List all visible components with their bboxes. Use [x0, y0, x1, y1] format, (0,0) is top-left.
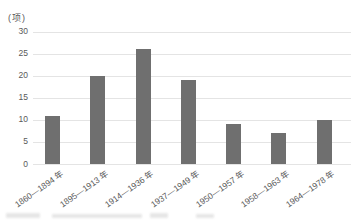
bar-chart: (项) 0510152025301860—1894 年1895—1913 年19… [0, 0, 353, 220]
cropped-text-fragment [6, 213, 40, 218]
bar [136, 49, 151, 164]
x-axis-label: 1937—1949 年 [149, 169, 201, 209]
gridline [33, 32, 351, 33]
y-axis-tick-label: 5 [6, 137, 28, 146]
gridline [33, 164, 351, 165]
x-axis-label: 1860—1894 年 [13, 169, 65, 209]
y-axis-tick-label: 10 [6, 115, 28, 124]
cropped-text-fragment [196, 214, 214, 218]
y-axis-tick-label: 20 [6, 71, 28, 80]
y-axis-tick-label: 25 [6, 49, 28, 58]
x-axis-label: 1914—1936 年 [104, 169, 156, 209]
bar [317, 120, 332, 164]
x-axis-label: 1895—1913 年 [58, 169, 110, 209]
gridline [33, 76, 351, 77]
y-axis-tick-label: 30 [6, 27, 28, 36]
x-axis-label: 1964—1978 年 [285, 169, 337, 209]
bar [226, 124, 241, 164]
y-axis-unit-label: (项) [8, 11, 26, 24]
y-axis-tick-label: 15 [6, 93, 28, 102]
cropped-text-fragment [52, 214, 142, 218]
bar [90, 76, 105, 164]
y-axis-tick-label: 0 [6, 160, 28, 169]
bar [45, 116, 60, 165]
bar [181, 80, 196, 164]
bar [271, 133, 286, 164]
x-axis-label: 1950—1957 年 [194, 169, 246, 209]
x-axis-label: 1958—1963 年 [239, 169, 291, 209]
gridline [33, 54, 351, 55]
cropped-text-fragment [150, 213, 168, 218]
